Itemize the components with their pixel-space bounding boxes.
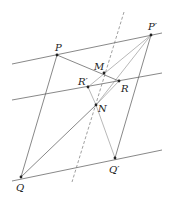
label-N: N bbox=[97, 103, 108, 114]
segment-RpN bbox=[88, 87, 96, 105]
segment-PR bbox=[57, 55, 119, 81]
point-M bbox=[103, 72, 106, 75]
label-M: M bbox=[93, 61, 105, 72]
segment-PpQp bbox=[115, 35, 151, 158]
dashed-line bbox=[72, 12, 124, 182]
segment-PQ bbox=[21, 55, 57, 177]
point-Pp bbox=[150, 34, 153, 37]
label-Q: Q bbox=[16, 182, 24, 193]
point-N bbox=[95, 104, 98, 107]
point-R bbox=[118, 80, 121, 83]
label-R: R bbox=[120, 83, 129, 94]
label-Qp: Q′ bbox=[109, 164, 120, 175]
label-Rp: R′ bbox=[77, 76, 89, 87]
label-P: P bbox=[54, 42, 62, 53]
point-P bbox=[56, 54, 59, 57]
segment-PpN bbox=[96, 35, 151, 105]
top-parallel-line bbox=[12, 33, 162, 64]
bottom-parallel-line bbox=[12, 150, 162, 181]
point-Qp bbox=[114, 157, 117, 160]
point-Q bbox=[20, 176, 23, 179]
geometry-diagram: P P′ M R R′ N Q Q′ bbox=[0, 0, 178, 201]
label-Pp: P′ bbox=[147, 21, 158, 32]
